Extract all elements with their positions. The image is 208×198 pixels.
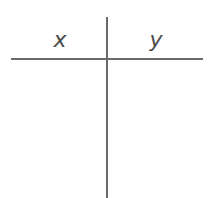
column-header-y: y [136,27,176,53]
column-divider-line [106,17,108,198]
column-header-x: x [40,27,80,53]
